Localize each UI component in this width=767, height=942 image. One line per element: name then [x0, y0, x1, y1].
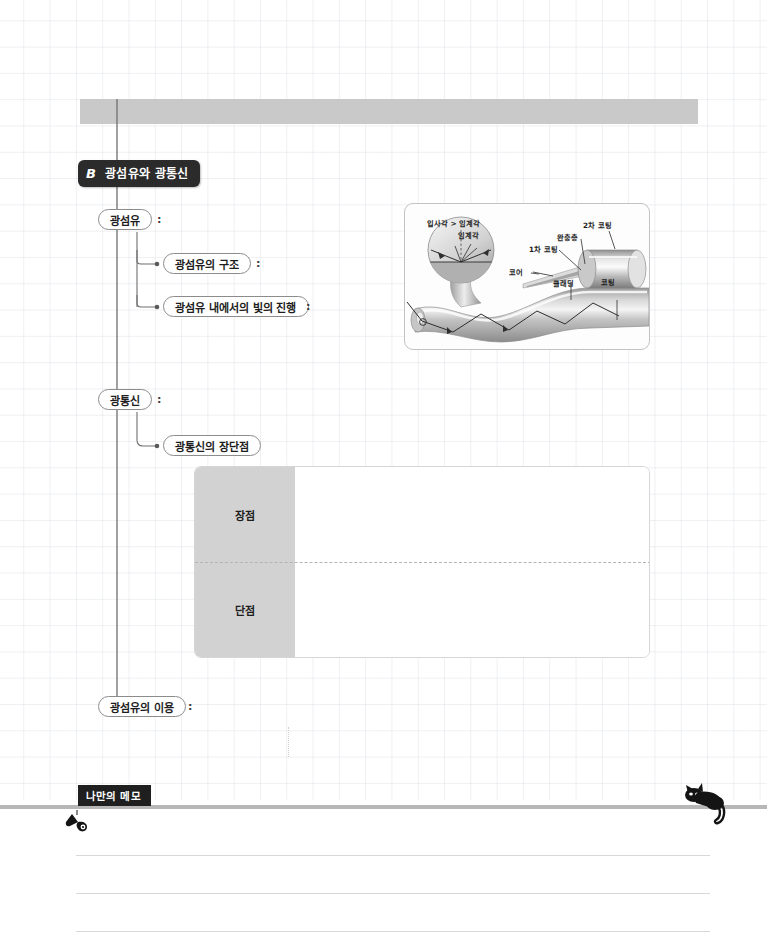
table-row-label-cons: 단점 — [195, 562, 295, 657]
table-row-label-pros: 장점 — [195, 467, 295, 562]
table-row-value-cons[interactable] — [295, 562, 649, 657]
table-row: 단점 — [195, 562, 649, 657]
mindmap-node-label: 광통신 — [110, 392, 140, 408]
page-bottom-background — [0, 800, 767, 942]
mindmap-node-label: 광섬유 — [110, 212, 140, 228]
dotted-guide-line — [288, 727, 289, 757]
section-badge: B 광섬유와 광통신 — [78, 160, 200, 187]
mindmap-node-label: 광섬유의 이용 — [110, 699, 174, 715]
mindmap-node-fiber-structure[interactable]: 광섬유의 구조 — [163, 253, 251, 274]
mindmap-node-optical-fiber[interactable]: 광섬유 — [98, 209, 152, 230]
table-row: 장점 — [195, 467, 649, 562]
mindmap-colon-fiber-structure: : — [256, 257, 260, 270]
cat-icon — [682, 781, 728, 833]
mindmap-node-label: 광통신의 장단점 — [175, 438, 249, 454]
mindmap-node-label: 광섬유의 구조 — [175, 256, 239, 272]
memo-line[interactable] — [76, 931, 710, 932]
memo-badge: 나만의 메모 — [78, 785, 151, 806]
memo-badge-fold-corner — [144, 785, 151, 792]
table-row-value-pros[interactable] — [295, 467, 649, 562]
optical-fiber-figure: 입사각 > 임계각 임계각 2차 코팅 완충층 1차 코팅 코어 클래딩 코팅 — [404, 203, 650, 350]
mindmap-colon-optical-communication: : — [157, 393, 161, 406]
mindmap-colon-fiber-usage: : — [188, 700, 192, 713]
figure-label-cladding: 클래딩 — [553, 279, 574, 288]
section-letter: B — [86, 167, 96, 180]
mindmap-node-light-propagation[interactable]: 광섬유 내에서의 빛의 진행 — [163, 296, 309, 317]
memo-line[interactable] — [76, 893, 710, 894]
table-row-divider — [195, 562, 650, 563]
page-title-bar — [80, 99, 698, 124]
mindmap-node-optical-communication[interactable]: 광통신 — [98, 389, 152, 410]
pros-cons-table: 장점 단점 — [194, 466, 650, 658]
figure-label-incidence-gt-critical: 입사각 > 임계각 — [427, 219, 480, 228]
figure-label-critical-angle: 임계각 — [458, 231, 479, 240]
memo-badge-label: 나만의 메모 — [86, 788, 141, 803]
optical-fiber-illustration: 입사각 > 임계각 임계각 2차 코팅 완충층 1차 코팅 코어 클래딩 코팅 — [405, 204, 649, 349]
figure-label-core: 코어 — [509, 268, 523, 277]
mindmap-node-comm-pros-cons[interactable]: 광통신의 장단점 — [163, 435, 261, 456]
memo-line[interactable] — [76, 855, 710, 856]
section-title: 광섬유와 광통신 — [105, 168, 189, 180]
figure-label-buffer-layer: 완충층 — [557, 233, 578, 242]
figure-label-secondary-coating: 2차 코팅 — [583, 221, 612, 230]
figure-label-primary-coating: 1차 코팅 — [529, 245, 558, 254]
mindmap-colon-light-propagation: : — [306, 300, 310, 313]
mindmap-node-fiber-usage[interactable]: 광섬유의 이용 — [98, 696, 186, 717]
mindmap-node-label: 광섬유 내에서의 빛의 진행 — [175, 299, 297, 315]
bird-icon — [62, 808, 96, 842]
figure-label-coating: 코팅 — [601, 278, 615, 287]
mindmap-colon-optical-fiber: : — [157, 213, 161, 226]
